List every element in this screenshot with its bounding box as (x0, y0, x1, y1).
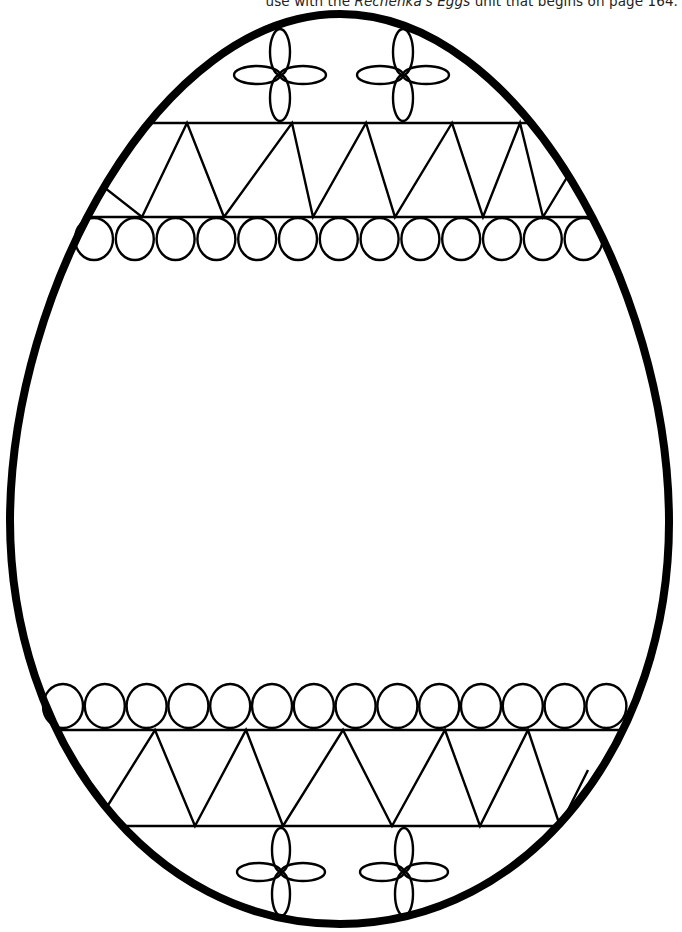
bottom-flower-decoration (237, 828, 448, 916)
flower-icon (360, 828, 448, 916)
circle-bead (545, 684, 585, 728)
circle-bead (116, 218, 154, 260)
circle-bead (127, 684, 167, 728)
flower-icon (234, 29, 326, 121)
circle-bead (524, 218, 562, 260)
circle-bead (442, 218, 480, 260)
circle-bead (461, 684, 501, 728)
circle-bead (336, 684, 376, 728)
circle-bead (361, 218, 399, 260)
circle-bead (85, 684, 125, 728)
bottom-circle-row (43, 684, 626, 728)
top-circle-row (75, 218, 603, 260)
circle-bead (503, 684, 543, 728)
circle-bead (238, 218, 276, 260)
egg-coloring-page (0, 0, 682, 932)
top-flower-decoration (234, 29, 449, 121)
circle-bead (419, 684, 459, 728)
circle-bead (157, 218, 195, 260)
circle-bead (252, 684, 292, 728)
circle-bead (586, 684, 626, 728)
egg-outline (10, 14, 669, 924)
top-zigzag-band (40, 123, 640, 217)
circle-bead (483, 218, 521, 260)
circle-bead (377, 684, 417, 728)
circle-bead (294, 684, 334, 728)
circle-bead (320, 218, 358, 260)
circle-bead (279, 218, 317, 260)
circle-bead (210, 684, 250, 728)
circle-bead (401, 218, 439, 260)
circle-bead (197, 218, 235, 260)
flower-icon (237, 828, 325, 916)
bottom-zigzag-band (40, 730, 640, 826)
circle-bead (168, 684, 208, 728)
